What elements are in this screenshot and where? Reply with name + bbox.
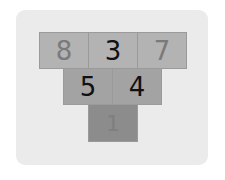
tile-r1-c3[interactable]: 7 (137, 32, 187, 69)
tile-r3-c1[interactable]: 1 (88, 104, 138, 142)
tile-r2-c1[interactable]: 5 (63, 68, 113, 105)
tile-r1-c1[interactable]: 8 (39, 32, 89, 69)
tile-r2-c2[interactable]: 4 (112, 68, 162, 105)
puzzle-card: 8 3 7 5 4 1 (16, 10, 208, 165)
tile-r1-c2[interactable]: 3 (88, 32, 138, 69)
